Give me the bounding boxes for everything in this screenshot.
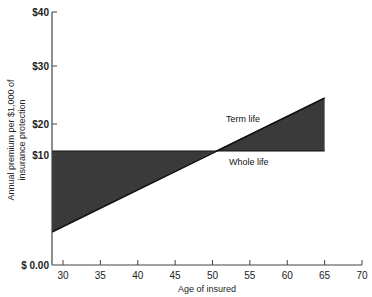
whole-life-label: Whole life xyxy=(229,157,269,167)
x-tick-label: 60 xyxy=(282,270,294,281)
y-tick-label: $10 xyxy=(32,150,49,161)
term-life-label: Term life xyxy=(226,114,260,124)
y-tick-label: $ 0.00 xyxy=(21,260,49,271)
x-tick-label: 65 xyxy=(319,270,331,281)
plot-area: $ 0.00$10$20$30$40303540455055606570Age … xyxy=(6,7,368,294)
x-tick-label: 40 xyxy=(132,270,144,281)
x-tick-label: 70 xyxy=(356,270,368,281)
y-tick-label: $30 xyxy=(32,61,49,72)
y-tick-label: $40 xyxy=(32,7,49,18)
y-tick-label: $20 xyxy=(32,119,49,130)
chart: $ 0.00$10$20$30$40303540455055606570Age … xyxy=(0,0,372,297)
x-tick-label: 45 xyxy=(170,270,182,281)
y-axis-title: Annual premium per $1,000 ofinsurance pr… xyxy=(6,79,27,201)
x-tick-label: 30 xyxy=(57,270,69,281)
x-tick-label: 35 xyxy=(95,270,107,281)
x-tick-label: 50 xyxy=(207,270,219,281)
x-tick-label: 55 xyxy=(244,270,256,281)
x-axis-title: Age of insured xyxy=(178,284,236,294)
